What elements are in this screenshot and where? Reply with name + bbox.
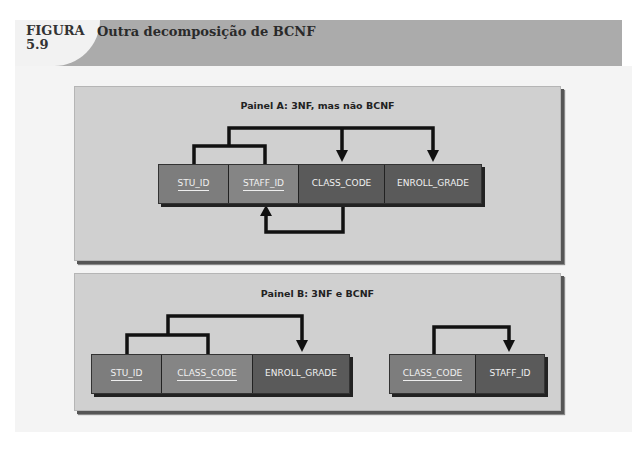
- column-stu-id: STU_ID: [92, 355, 162, 393]
- column-label: STAFF_ID: [489, 368, 530, 380]
- panel-b-table-class: CLASS_CODE STAFF_ID: [389, 354, 545, 394]
- column-staff-id: STAFF_ID: [476, 355, 544, 393]
- column-label: CLASS_CODE: [177, 368, 237, 381]
- column-label: STU_ID: [111, 368, 143, 381]
- column-class-code: CLASS_CODE: [162, 355, 253, 393]
- column-enroll-grade: ENROLL_GRADE: [253, 355, 349, 393]
- panel-b-table-enrollment: STU_ID CLASS_CODE ENROLL_GRADE: [91, 354, 350, 394]
- column-class-code: CLASS_CODE: [390, 355, 476, 393]
- column-label: CLASS_CODE: [403, 368, 463, 381]
- column-label: ENROLL_GRADE: [265, 368, 337, 380]
